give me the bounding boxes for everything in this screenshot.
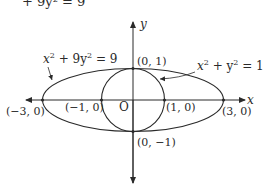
ellipse-equation-label: x2 + 9y2 = 9 (43, 51, 117, 66)
label-neg1-0: (−1, 0) (65, 101, 104, 114)
label-1-0: (1, 0) (166, 101, 196, 114)
ellipse-circle-diagram: + 9y² = 9 y x (0, 1) (0, −1) (−3, 0) (−1… (0, 0, 266, 189)
label-0-neg1: (0, −1) (137, 136, 176, 149)
circle-equation-label: x2 + y2 = 1 (197, 58, 264, 73)
svg-text:x2 + 9y2 = 9: x2 + 9y2 = 9 (43, 51, 117, 66)
svg-text:x2 + y2 = 1: x2 + y2 = 1 (197, 58, 264, 73)
label-3-0: (3, 0) (222, 105, 252, 118)
point-0-1 (131, 67, 134, 70)
label-neg3-0: (−3, 0) (6, 105, 45, 118)
ellipse-label-arrow (48, 67, 52, 80)
point-3-0 (222, 98, 225, 101)
origin-label: O (119, 100, 129, 114)
point-0-neg1 (131, 130, 134, 133)
point-neg3-0 (41, 98, 44, 101)
label-0-1: (0, 1) (137, 55, 167, 68)
top-caption-partial: + 9y² = 9 (22, 0, 85, 9)
y-axis-label: y (139, 17, 147, 31)
